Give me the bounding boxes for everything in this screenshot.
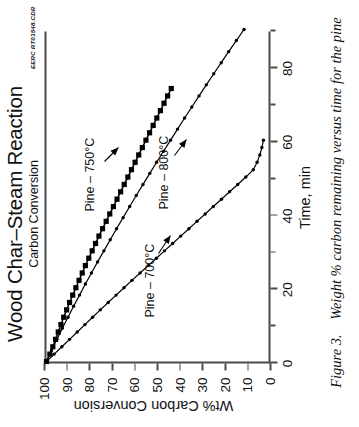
- x-tick-major: [271, 140, 278, 142]
- annotation-pine-750: Pine – 750°C: [83, 137, 97, 211]
- figure-page: Wood Char–Steam Reaction Carbon Conversi…: [0, 0, 359, 427]
- x-axis-label: Time, min: [297, 31, 313, 363]
- x-tick-major: [271, 361, 278, 363]
- series-marker: [61, 314, 66, 319]
- annotation-arrowhead: [179, 139, 187, 147]
- y-tick-label: 100: [37, 377, 52, 411]
- series-marker: [107, 211, 112, 216]
- caption-text: Weight % carbon remaining versus time fo…: [328, 17, 344, 320]
- series-marker: [140, 144, 145, 149]
- series-marker: [260, 145, 263, 148]
- chart-figure: Wood Char–Steam Reaction Carbon Conversi…: [1, 0, 317, 427]
- x-tick-label: 80: [280, 51, 295, 85]
- series-marker: [132, 159, 137, 164]
- series-marker: [154, 115, 159, 120]
- chart-title: Wood Char–Steam Reaction: [3, 0, 27, 427]
- series-marker: [125, 174, 130, 179]
- series-marker: [80, 270, 85, 275]
- x-tick-label: 60: [280, 125, 295, 159]
- series-marker: [151, 122, 156, 127]
- series-line: [47, 88, 172, 361]
- series-marker: [100, 226, 105, 231]
- series-marker: [58, 322, 63, 327]
- x-tick-minor: [271, 177, 276, 179]
- series-marker: [143, 137, 148, 142]
- y-axis-label: Wt% Carbon Conversion: [74, 397, 234, 413]
- y-tick-label: 90: [59, 377, 74, 411]
- series-marker: [122, 181, 127, 186]
- caption-number: Figure 3.: [328, 334, 344, 387]
- series-marker: [114, 196, 119, 201]
- y-tick-major: [270, 363, 272, 370]
- series-marker: [90, 248, 95, 253]
- x-tick-minor: [271, 103, 276, 105]
- series-marker: [262, 138, 265, 141]
- x-tick-major: [271, 287, 278, 289]
- series-marker: [83, 262, 88, 267]
- y-tick-major: [111, 363, 113, 370]
- series-marker: [158, 108, 163, 113]
- x-tick-label: 0: [280, 346, 295, 380]
- series-marker: [86, 255, 91, 260]
- x-tick-label: 20: [280, 272, 295, 306]
- x-tick-minor: [271, 324, 276, 326]
- series-marker: [64, 307, 69, 312]
- series-marker: [76, 277, 81, 282]
- x-tick-label: 40: [280, 198, 295, 232]
- series-marker: [111, 203, 116, 208]
- series-marker: [70, 292, 75, 297]
- series-marker: [147, 130, 152, 135]
- series-marker: [118, 189, 123, 194]
- x-tick-major: [271, 66, 278, 68]
- annotation-arrowhead: [163, 235, 170, 244]
- y-tick-major: [44, 363, 46, 370]
- y-tick-label: 10: [240, 377, 255, 411]
- y-tick-major: [202, 363, 204, 370]
- series-marker: [67, 299, 72, 304]
- series-marker: [73, 285, 78, 290]
- y-tick-label: 0: [263, 377, 278, 411]
- figure-caption: Figure 3. Weight % carbon remaining vers…: [315, 0, 357, 427]
- annotation-pine-800: Pine – 800°C: [157, 135, 171, 209]
- series-marker: [104, 218, 109, 223]
- rotated-chart-wrapper: Wood Char–Steam Reaction Carbon Conversi…: [0, 0, 359, 427]
- y-tick-major: [179, 363, 181, 370]
- x-tick-major: [271, 214, 278, 216]
- y-tick-major: [89, 363, 91, 370]
- series-marker: [161, 100, 166, 105]
- y-tick-major: [157, 363, 159, 370]
- y-tick-major: [247, 363, 249, 370]
- y-tick-major: [224, 363, 226, 370]
- y-tick-major: [134, 363, 136, 370]
- series-marker: [169, 85, 174, 90]
- series-marker: [93, 240, 98, 245]
- plot-area: Pine – 700°C Pine – 750°C Pine – 800°C: [45, 31, 271, 363]
- annotation-pine-700: Pine – 700°C: [143, 243, 157, 317]
- series-marker: [242, 27, 245, 30]
- x-tick-minor: [271, 29, 276, 31]
- y-tick-major: [66, 363, 68, 370]
- x-tick-minor: [271, 251, 276, 253]
- series-marker: [96, 233, 101, 238]
- source-code-label: EERC RT03548.CDR: [29, 6, 36, 69]
- series-marker: [129, 167, 134, 172]
- series-marker: [136, 152, 141, 157]
- series-marker: [165, 93, 170, 98]
- series-marker: [258, 153, 261, 156]
